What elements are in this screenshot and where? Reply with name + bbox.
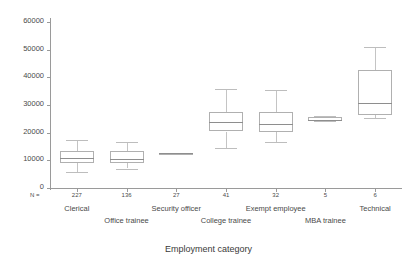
box-median-line <box>259 124 293 125</box>
x-axis-category-label: Security officer <box>136 204 216 213</box>
box-median-line <box>159 153 193 154</box>
whisker-lower <box>77 163 78 172</box>
x-axis-category-label: Office trainee <box>87 216 167 225</box>
whisker-cap-lower <box>314 121 336 122</box>
x-axis-category-label: College trainee <box>186 216 266 225</box>
box-iqr <box>358 70 392 115</box>
y-axis-tick-label: 50000 <box>2 45 44 53</box>
x-axis-category-label: Exempt employee <box>236 204 316 213</box>
whisker-lower <box>127 163 128 168</box>
n-count-value: 136 <box>109 192 145 199</box>
whisker-upper <box>77 140 78 151</box>
y-axis-tick <box>47 105 50 106</box>
box-median-line <box>60 158 94 159</box>
n-count-value: 27 <box>158 192 194 199</box>
n-count-value: 227 <box>59 192 95 199</box>
y-axis-tick <box>47 188 50 189</box>
n-count-value: 5 <box>307 192 343 199</box>
box-median-line <box>358 103 392 104</box>
y-axis-tick-label: 40000 <box>2 72 44 80</box>
n-prefix-label: N = <box>30 192 40 199</box>
whisker-cap-upper <box>265 90 287 91</box>
box-iqr <box>259 112 293 132</box>
whisker-cap-lower <box>364 118 386 119</box>
whisker-cap-lower <box>215 148 237 149</box>
whisker-upper <box>226 89 227 113</box>
x-axis-category-label: MBA trainee <box>285 216 365 225</box>
y-axis-line <box>50 18 51 190</box>
x-axis-category-label: Clerical <box>37 204 117 213</box>
whisker-lower <box>226 132 227 148</box>
whisker-cap-lower <box>265 142 287 143</box>
whisker-cap-lower <box>116 169 138 170</box>
x-axis-category-label: Technical <box>335 204 415 213</box>
y-axis-tick <box>47 22 50 23</box>
box-median-line <box>308 120 342 121</box>
whisker-lower <box>276 132 277 142</box>
whisker-cap-upper <box>116 142 138 143</box>
whisker-cap-lower <box>66 172 88 173</box>
y-axis-tick-label: 0 <box>2 183 44 191</box>
y-axis-tick <box>47 160 50 161</box>
whisker-cap-upper <box>364 47 386 48</box>
y-axis-tick-label: 10000 <box>2 155 44 163</box>
whisker-upper <box>276 90 277 112</box>
n-count-value: 41 <box>208 192 244 199</box>
box-iqr <box>110 151 144 163</box>
y-axis-tick <box>47 77 50 78</box>
n-count-value: 32 <box>258 192 294 199</box>
whisker-cap-upper <box>66 140 88 141</box>
box-plot-figure: 0100002000030000400005000060000N =227136… <box>0 0 417 267</box>
box-median-line <box>209 122 243 123</box>
y-axis-tick <box>47 50 50 51</box>
y-axis-tick <box>47 133 50 134</box>
whisker-cap-upper <box>215 89 237 90</box>
box-median-line <box>110 159 144 160</box>
y-axis-tick-label: 30000 <box>2 100 44 108</box>
n-count-value: 6 <box>357 192 393 199</box>
x-axis-title: Employment category <box>0 244 417 255</box>
whisker-upper <box>375 47 376 70</box>
y-axis-tick-label: 60000 <box>2 17 44 25</box>
y-axis-tick-label: 20000 <box>2 128 44 136</box>
